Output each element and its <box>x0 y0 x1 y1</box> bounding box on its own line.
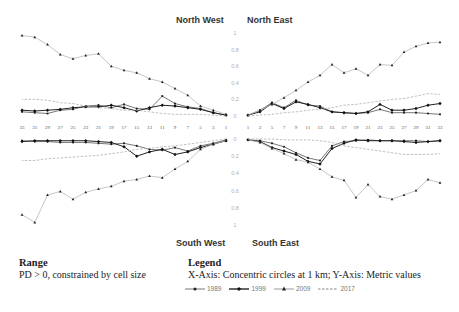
data-point <box>439 113 441 115</box>
legend-label: 2009 <box>296 285 310 292</box>
y-tick-label: 0.4 <box>231 170 239 176</box>
radial-profile-chart: North West North East South West South E… <box>0 0 459 250</box>
data-point <box>161 148 164 151</box>
line-small-dot-icon <box>185 286 205 292</box>
legend-text: X-Axis: Concentric circles at 1 km; Y-Ax… <box>188 269 421 280</box>
x-tick-label: 23 <box>83 125 89 130</box>
data-point <box>355 67 358 70</box>
x-tick-label: 1 <box>247 125 250 130</box>
x-tick-label: 5 <box>199 125 202 130</box>
y-tick-label: 0 <box>233 136 236 142</box>
x-tick-label: 27 <box>58 125 64 130</box>
data-point <box>331 63 334 66</box>
y-axis: 10.80.60.40.2000.20.40.60.81 <box>231 30 239 228</box>
data-point <box>342 111 345 114</box>
data-point <box>378 139 381 142</box>
data-point <box>123 142 125 144</box>
data-point <box>391 112 393 114</box>
series-line-2009 <box>22 35 226 114</box>
x-tick-label: 15 <box>330 125 336 130</box>
data-point <box>366 139 369 142</box>
quadrant-south-east <box>246 138 441 200</box>
x-tick-label: 1 <box>225 125 228 130</box>
data-point <box>438 139 441 142</box>
data-point <box>46 112 48 114</box>
legend-label: 1999 <box>251 285 265 292</box>
data-point <box>307 157 309 159</box>
x-tick-label: 7 <box>187 125 190 130</box>
y-tick-label: 0.2 <box>231 96 239 102</box>
data-point <box>414 107 417 110</box>
x-tick-label: 31 <box>32 125 38 130</box>
y-tick-label: 0.8 <box>231 47 239 53</box>
data-point <box>390 108 393 111</box>
legend-item-2017: 2017 <box>318 285 354 292</box>
data-point <box>438 102 441 105</box>
data-point <box>71 139 74 142</box>
x-tick-label: 21 <box>96 125 102 130</box>
x-tick-label: 17 <box>122 125 128 130</box>
data-point <box>123 103 125 105</box>
series-line-2009 <box>248 42 440 115</box>
data-point <box>110 141 113 144</box>
x-axis: 3331292725232119171513119753113579111315… <box>20 125 444 130</box>
y-tick-label: 1 <box>233 222 236 228</box>
data-point <box>426 140 429 143</box>
x-tick-label: 25 <box>390 125 396 130</box>
data-point <box>148 150 151 153</box>
x-tick-label: 31 <box>426 125 432 130</box>
legend-item-1989: 1989 <box>185 285 221 292</box>
x-tick-label: 9 <box>295 125 298 130</box>
range-text: PD > 0, constrained by cell size <box>19 269 146 280</box>
x-tick-label: 15 <box>134 125 140 130</box>
legend-label: 1989 <box>207 285 221 292</box>
line-diamond-icon <box>229 286 249 292</box>
data-point <box>97 140 100 143</box>
data-point <box>161 104 164 107</box>
legend-item-2009: 2009 <box>274 285 310 292</box>
x-tick-label: 33 <box>20 125 26 130</box>
data-point <box>110 104 113 107</box>
x-tick-label: 9 <box>174 125 177 130</box>
x-tick-label: 3 <box>259 125 262 130</box>
y-tick-label: 0 <box>233 113 236 119</box>
data-point <box>426 104 429 107</box>
data-point <box>390 139 393 142</box>
legend-block: Legend X-Axis: Concentric circles at 1 k… <box>188 257 421 280</box>
x-tick-label: 3 <box>212 125 215 130</box>
y-tick-label: 0.6 <box>231 63 239 69</box>
x-tick-label: 25 <box>71 125 77 130</box>
data-point <box>161 95 163 97</box>
y-tick-label: 0.2 <box>231 153 239 159</box>
y-tick-label: 0.6 <box>231 188 239 194</box>
data-point <box>354 112 357 115</box>
data-point <box>403 112 405 114</box>
title-south-east: South East <box>252 238 299 248</box>
title-south-west: South West <box>176 238 225 248</box>
dashed-line-icon <box>318 286 338 292</box>
data-point <box>46 108 49 111</box>
data-point <box>283 146 285 148</box>
quadrant-south-west <box>20 139 227 224</box>
x-tick-label: 7 <box>283 125 286 130</box>
data-point <box>174 102 176 104</box>
data-point <box>415 112 417 114</box>
legend-items: 1989 1999 2009 2017 <box>185 285 355 292</box>
x-tick-label: 23 <box>378 125 384 130</box>
x-tick-label: 19 <box>109 125 115 130</box>
range-title: Range <box>19 257 146 268</box>
x-tick-label: 11 <box>160 125 165 130</box>
data-point <box>20 108 23 111</box>
x-tick-label: 29 <box>414 125 420 130</box>
data-point <box>271 142 273 144</box>
x-tick-label: 13 <box>318 125 324 130</box>
data-point <box>136 145 138 147</box>
data-point <box>59 139 62 142</box>
legend-item-1999: 1999 <box>229 285 265 292</box>
series-line-1989 <box>22 96 226 115</box>
quadrant-north-west <box>20 34 227 117</box>
data-point <box>174 147 176 149</box>
title-north-west: North West <box>176 15 224 25</box>
data-point <box>402 108 405 111</box>
x-tick-label: 5 <box>271 125 274 130</box>
